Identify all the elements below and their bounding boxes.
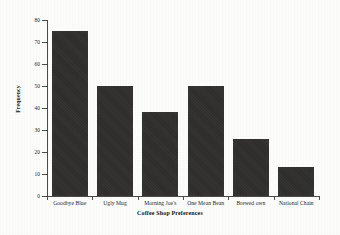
- bar: [97, 86, 133, 196]
- bar: [142, 112, 178, 196]
- x-axis-tick-label: National Chain: [274, 200, 319, 206]
- y-axis-tick: [42, 20, 47, 21]
- x-axis-tick: [274, 196, 275, 200]
- y-axis-tick: [42, 42, 47, 43]
- x-axis-tick: [138, 196, 139, 200]
- y-axis-line: [47, 20, 48, 197]
- x-axis-tick-label: Goodbye Blue: [47, 200, 92, 206]
- y-axis-tick-label: 0: [14, 194, 40, 199]
- y-axis-title: Frequency: [15, 69, 21, 129]
- y-axis-tick: [42, 130, 47, 131]
- y-axis-tick-label: 60: [14, 62, 40, 67]
- y-axis-tick: [42, 64, 47, 65]
- y-axis-tick-label: 20: [14, 150, 40, 155]
- y-axis-tick-label: 70: [14, 40, 40, 45]
- y-axis-tick-label: 50: [14, 84, 40, 89]
- y-axis-tick: [42, 174, 47, 175]
- y-axis-tick-label: 30: [14, 128, 40, 133]
- bar: [52, 31, 88, 196]
- y-axis-tick-label: 80: [14, 18, 40, 23]
- x-axis-title: Coffee Shop Preferences: [0, 210, 340, 216]
- bar: [233, 139, 269, 196]
- x-axis-tick-label: Ugly Mug: [92, 200, 137, 206]
- x-axis-tick-label: Morning Joe's: [138, 200, 183, 206]
- y-axis-tick: [42, 108, 47, 109]
- x-axis-tick: [92, 196, 93, 200]
- x-axis-tick: [319, 196, 320, 200]
- bar-chart-figure: Frequency 01020304050607080 Goodbye Blue…: [0, 0, 340, 235]
- x-axis-tick-label: One Mean Bean: [183, 200, 228, 206]
- bar: [278, 167, 314, 196]
- x-axis-tick: [47, 196, 48, 200]
- y-axis-tick: [42, 152, 47, 153]
- bar: [188, 86, 224, 196]
- x-axis-tick-label: Brewed own: [228, 200, 273, 206]
- plot-area: [47, 20, 319, 196]
- y-axis-tick-label: 40: [14, 106, 40, 111]
- x-axis-tick: [183, 196, 184, 200]
- y-axis-tick-label: 10: [14, 172, 40, 177]
- y-axis-tick: [42, 86, 47, 87]
- x-axis-tick: [228, 196, 229, 200]
